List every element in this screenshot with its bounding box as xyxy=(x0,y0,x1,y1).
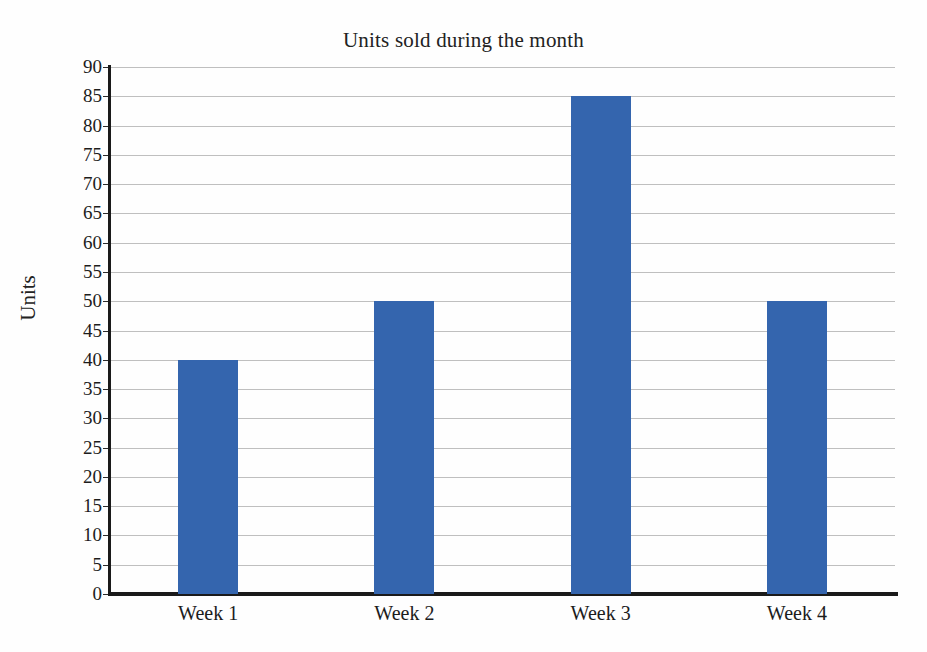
y-axis-tick-label: 20 xyxy=(56,467,102,486)
y-axis-tick-label: 0 xyxy=(56,584,102,603)
bar[interactable] xyxy=(767,301,827,594)
bar-chart: Units sold during the month Units 051015… xyxy=(0,0,927,652)
y-axis-tick-label: 90 xyxy=(56,57,102,76)
y-axis-tick-label: 40 xyxy=(56,350,102,369)
y-axis-tick-label: 65 xyxy=(56,203,102,222)
bar[interactable] xyxy=(571,96,631,594)
y-axis-tick-label: 35 xyxy=(56,379,102,398)
y-axis-title: Units xyxy=(16,238,41,358)
y-axis-tick-label: 30 xyxy=(56,408,102,427)
y-axis-tick-label: 70 xyxy=(56,174,102,193)
y-axis-tick-label: 55 xyxy=(56,262,102,281)
y-axis-tick-label: 15 xyxy=(56,496,102,515)
x-axis-category-label: Week 4 xyxy=(699,602,895,625)
chart-title: Units sold during the month xyxy=(0,28,927,53)
y-axis-tick-label: 45 xyxy=(56,321,102,340)
x-axis-category-labels: Week 1Week 2Week 3Week 4 xyxy=(110,602,895,636)
y-axis-tick-label: 60 xyxy=(56,233,102,252)
x-axis-category-label: Week 2 xyxy=(306,602,502,625)
bar-series-units xyxy=(110,67,895,594)
y-axis-tick-label: 85 xyxy=(56,86,102,105)
bar[interactable] xyxy=(374,301,434,594)
y-axis-tick-label: 80 xyxy=(56,116,102,135)
y-axis-tick-label: 75 xyxy=(56,145,102,164)
y-axis-tick-label: 5 xyxy=(56,555,102,574)
bar[interactable] xyxy=(178,360,238,594)
x-axis-category-label: Week 1 xyxy=(110,602,306,625)
y-axis-tick-label: 10 xyxy=(56,525,102,544)
y-axis-tick-label: 50 xyxy=(56,291,102,310)
y-axis-tick-label: 25 xyxy=(56,438,102,457)
y-axis-tick-labels: 051015202530354045505560657075808590 xyxy=(52,67,102,594)
x-axis-category-label: Week 3 xyxy=(503,602,699,625)
